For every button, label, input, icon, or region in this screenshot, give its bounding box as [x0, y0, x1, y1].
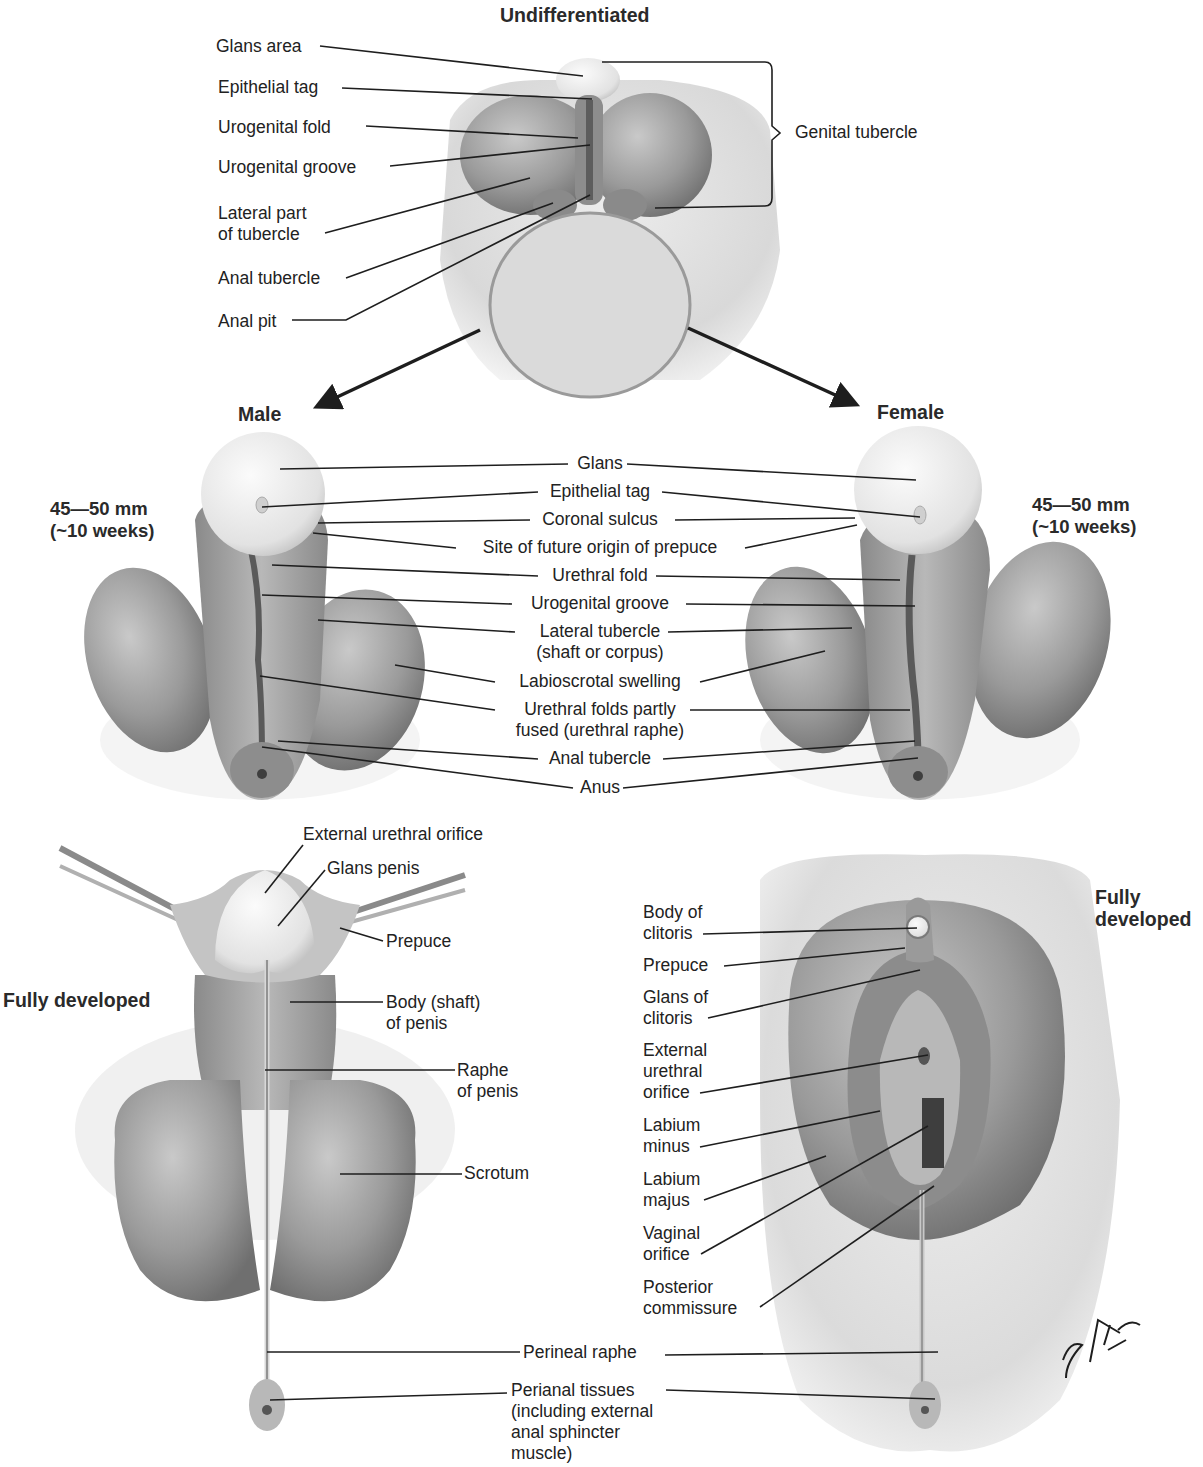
label-epithelial-tag-10wk-text: Epithelial tag [550, 481, 650, 501]
label-coronal-sulcus-text: Coronal sulcus [542, 509, 658, 529]
heading-undifferentiated: Undifferentiated [500, 4, 650, 26]
female-developed-illustration [760, 854, 1120, 1451]
label-glans-of-clitoris: Glans of clitoris [643, 987, 708, 1029]
heading-female: Female [877, 401, 944, 423]
label-glans-penis: Glans penis [327, 858, 419, 879]
label-urogenital-groove: Urogenital groove [218, 157, 356, 178]
label-urogenital-fold: Urogenital fold [218, 117, 331, 138]
label-glans: Glans [400, 453, 800, 474]
label-labioscrotal-swelling-text: Labioscrotal swelling [519, 671, 680, 691]
label-raphe-of-penis: Raphe of penis [457, 1060, 518, 1102]
label-epithelial-tag-10wk: Epithelial tag [400, 481, 800, 502]
heading-male: Male [238, 403, 281, 425]
label-coronal-sulcus: Coronal sulcus [400, 509, 800, 530]
label-anus-text: Anus [580, 777, 620, 797]
male-size-note: 45—50 mm (~10 weeks) [50, 498, 154, 542]
label-lateral-tubercle-text: Lateral tubercle (shaft or corpus) [536, 621, 663, 662]
label-posterior-commissure: Posterior commissure [643, 1277, 737, 1319]
label-site-of-future-prepuce: Site of future origin of prepuce [400, 537, 800, 558]
female-size-note: 45—50 mm (~10 weeks) [1032, 494, 1136, 538]
label-site-of-future-prepuce-text: Site of future origin of prepuce [483, 537, 717, 557]
label-external-urethral-orifice-female: External urethral orifice [643, 1040, 707, 1103]
label-urethral-fold: Urethral fold [400, 565, 800, 586]
label-anus: Anus [400, 777, 800, 798]
label-body-of-clitoris: Body of clitoris [643, 902, 702, 944]
label-scrotum: Scrotum [464, 1163, 529, 1184]
label-urethral-folds-fused-text: Urethral folds partly fused (urethral ra… [516, 699, 684, 740]
label-urethral-folds-fused: Urethral folds partly fused (urethral ra… [400, 699, 800, 741]
label-labioscrotal-swelling: Labioscrotal swelling [400, 671, 800, 692]
label-glans-text: Glans [577, 453, 623, 473]
heading-male-fully-developed: Fully developed [3, 989, 150, 1011]
label-body-of-penis: Body (shaft) of penis [386, 992, 480, 1034]
label-urogenital-groove-10wk: Urogenital groove [400, 593, 800, 614]
label-genital-tubercle: Genital tubercle [795, 122, 918, 143]
label-labium-minus: Labium minus [643, 1115, 700, 1157]
label-vaginal-orifice: Vaginal orifice [643, 1223, 700, 1265]
label-lateral-part-of-tubercle: Lateral part of tubercle [218, 203, 307, 245]
label-anal-tubercle-10wk-text: Anal tubercle [549, 748, 651, 768]
label-lateral-tubercle: Lateral tubercle (shaft or corpus) [400, 621, 800, 663]
label-epithelial-tag: Epithelial tag [218, 77, 318, 98]
label-labium-majus: Labium majus [643, 1169, 700, 1211]
label-glans-area: Glans area [216, 36, 302, 57]
male-10wk-illustration [62, 432, 445, 800]
label-prepuce-female: Prepuce [643, 955, 708, 976]
label-anal-pit: Anal pit [218, 311, 276, 332]
label-perianal-tissues: Perianal tissues (including external ana… [511, 1380, 653, 1464]
label-anal-tubercle-undiff: Anal tubercle [218, 268, 320, 289]
label-perineal-raphe: Perineal raphe [523, 1342, 637, 1363]
heading-female-fully-developed: Fully developed [1095, 886, 1191, 930]
label-urethral-fold-text: Urethral fold [552, 565, 647, 585]
label-anal-tubercle-10wk: Anal tubercle [400, 748, 800, 769]
label-prepuce-male: Prepuce [386, 931, 451, 952]
label-urogenital-groove-10wk-text: Urogenital groove [531, 593, 669, 613]
label-external-urethral-orifice-male: External urethral orifice [303, 824, 483, 845]
